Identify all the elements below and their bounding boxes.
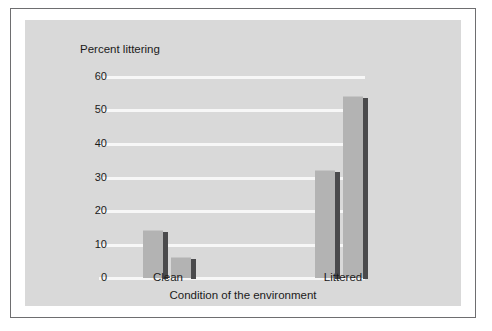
ytick-label-40: 40 bbox=[67, 138, 107, 149]
bar-clean-series-1[interactable] bbox=[143, 230, 163, 277]
plot-background: Percent littering 60 50 40 30 20 10 0 bbox=[25, 20, 461, 306]
ytick-label-60: 60 bbox=[67, 71, 107, 82]
gridline-40 bbox=[99, 143, 365, 146]
ytick-label-30: 30 bbox=[67, 172, 107, 183]
bar-fill bbox=[343, 96, 363, 278]
bar-shadow-edge bbox=[363, 98, 368, 279]
ytick-label-0: 0 bbox=[67, 272, 107, 283]
ytick-label-10: 10 bbox=[67, 239, 107, 250]
bar-littered-series-2[interactable] bbox=[343, 96, 363, 277]
bar-fill bbox=[315, 170, 335, 278]
bar-shadow-edge bbox=[335, 172, 340, 279]
ytick-label-50: 50 bbox=[67, 104, 107, 115]
y-axis-title: Percent littering bbox=[80, 43, 160, 55]
xtick-label-clean: Clean bbox=[123, 271, 213, 283]
bar-littered-series-1[interactable] bbox=[315, 170, 335, 277]
figure-frame: Percent littering 60 50 40 30 20 10 0 bbox=[10, 8, 476, 318]
gridline-50 bbox=[99, 109, 365, 112]
x-axis-title: Condition of the environment bbox=[25, 289, 461, 301]
ytick-label-20: 20 bbox=[67, 205, 107, 216]
xtick-label-littered: Littered bbox=[293, 271, 393, 283]
gridline-60 bbox=[99, 76, 365, 79]
bar-chart: Percent littering 60 50 40 30 20 10 0 bbox=[25, 20, 461, 306]
